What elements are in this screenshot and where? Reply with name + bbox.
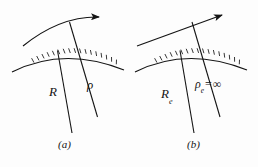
label-radius-R-text: R: [49, 84, 57, 99]
radius-rho-line: [70, 22, 98, 117]
label-radius-Re-subscript: e: [169, 97, 173, 106]
radius-Re-line: [180, 51, 194, 134]
label-radius-rho-e: ρe=∞: [195, 78, 221, 93]
earth-surface-arc: [135, 58, 247, 72]
label-radius-rho-e-symbol: ρ: [195, 77, 201, 91]
figure-root: R ρ (a): [0, 0, 258, 167]
trajectory-straight-line: [137, 15, 222, 46]
earth-surface-arc: [12, 58, 124, 72]
label-equals-sign: =: [204, 77, 213, 91]
panel-a: R ρ (a): [0, 0, 129, 167]
panel-b: Re ρe=∞ (b): [129, 0, 258, 167]
caption-a: (a): [0, 138, 129, 150]
radius-rho-e-line: [192, 22, 220, 117]
radius-R-line: [58, 51, 73, 134]
label-infinity-symbol: ∞: [213, 77, 222, 91]
label-radius-R: R: [49, 85, 57, 98]
trajectory-arc: [23, 17, 99, 46]
label-radius-rho-text: ρ: [87, 77, 93, 92]
label-radius-Re: Re: [161, 87, 173, 104]
surface-hatching: [155, 48, 240, 64]
label-radius-rho: ρ: [87, 78, 93, 91]
caption-b: (b): [129, 138, 258, 150]
label-radius-rho-e-subscript: e: [201, 86, 204, 95]
surface-hatching: [32, 48, 117, 64]
label-radius-Re-symbol: R: [161, 86, 169, 101]
